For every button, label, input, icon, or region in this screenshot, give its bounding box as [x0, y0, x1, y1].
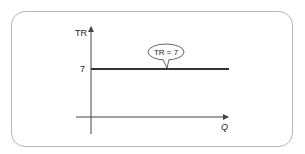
x-axis-label: Q [221, 122, 228, 132]
tr-annotation-bubble: TR = 7 [148, 44, 184, 68]
bubble-text: TR = 7 [154, 48, 179, 57]
y-tick-label: 7 [80, 64, 85, 74]
tr-chart: TR 7 Q TR = 7 [0, 0, 305, 154]
y-axis-label: TR [75, 28, 87, 38]
